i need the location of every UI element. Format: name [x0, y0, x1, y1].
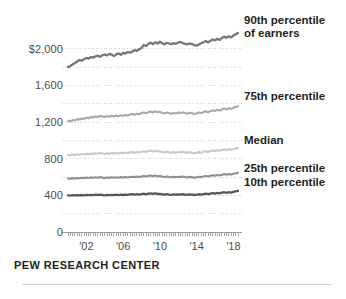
legend-label-p90: 90th percentileof earners [244, 14, 344, 39]
legend-label-p75: 75th percentile [244, 90, 325, 103]
bottom-divider [22, 284, 332, 285]
legend-label-p90-line1: 90th percentile [244, 14, 344, 27]
legend-direct-labels: 90th percentileof earners75th percentile… [0, 0, 346, 260]
source-credit: PEW RESEARCH CENTER [14, 259, 160, 271]
legend-label-p90-line2: of earners [244, 27, 344, 40]
legend-label-p25: 25th percentile [244, 162, 325, 175]
chart-container: $2,0001,6001,2008004000 '02'06'10'14'18 … [0, 0, 346, 299]
legend-label-p10: 10th percentile [244, 176, 325, 189]
legend-label-median: Median [244, 134, 284, 147]
